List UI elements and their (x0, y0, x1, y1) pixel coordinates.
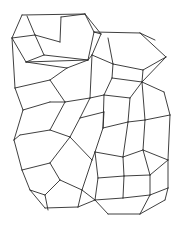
cage-edge (92, 55, 113, 64)
cage-edge (80, 98, 90, 118)
cage-edge (145, 115, 170, 120)
cage-edge (123, 157, 124, 176)
cage-edge (140, 33, 155, 40)
zeolite-cage-wireframe (0, 0, 181, 231)
cage-edge (15, 88, 23, 110)
cage-edge (168, 115, 170, 160)
cage-edge (164, 92, 170, 115)
cage-edge (27, 16, 35, 35)
cage-edge (123, 176, 124, 198)
cage-edge (12, 38, 26, 62)
cage-edge (26, 55, 44, 62)
cage-edge (104, 95, 130, 98)
cage-edge (50, 130, 70, 137)
cage-edge (50, 102, 65, 130)
cage-edge (94, 32, 140, 33)
cage-edge (22, 163, 50, 170)
cage-edge (123, 150, 143, 157)
cage-edge (90, 55, 92, 98)
cage-edge (112, 64, 113, 78)
cage-edge (15, 80, 50, 88)
cage-edge (165, 188, 168, 200)
cage-edge (78, 200, 95, 207)
cage-edge (95, 152, 98, 178)
cage-edge (95, 178, 98, 200)
cage-edge (143, 150, 168, 160)
cage-edge (14, 110, 23, 140)
cage-edge (35, 35, 44, 55)
cage-edge (67, 60, 88, 68)
cage-edge (50, 80, 65, 102)
cage-edge (95, 152, 123, 157)
cage-edge (50, 163, 60, 180)
cage-edge (150, 160, 168, 175)
cage-edge (128, 98, 130, 122)
cage-edge (150, 188, 168, 195)
cage-edge (65, 98, 90, 102)
cage-edge (140, 33, 166, 57)
cage-edge (98, 176, 124, 178)
cage-edges (12, 14, 170, 214)
cage-edge (90, 95, 104, 98)
cage-edge (104, 78, 112, 95)
cage-edge (80, 112, 104, 118)
cage-edge (35, 35, 60, 42)
cage-edge (108, 38, 113, 64)
cage-edge (14, 140, 22, 170)
cage-edge (128, 120, 145, 122)
cage-edge (130, 82, 142, 98)
cage-edge (60, 17, 61, 42)
cage-edge (123, 195, 150, 198)
cage-edge (60, 180, 82, 190)
cage-edge (142, 70, 143, 82)
cage-edge (123, 122, 128, 157)
cage-edge (143, 57, 166, 70)
cage-edge (12, 15, 22, 38)
cage-edge (70, 137, 92, 160)
cage-edge (22, 170, 30, 190)
cage-edge (26, 62, 67, 68)
cage-edge (95, 198, 123, 200)
cage-edge (142, 57, 166, 82)
cage-edge (95, 200, 108, 214)
cage-edge (70, 118, 80, 137)
cage-edge (26, 60, 88, 62)
cage-edge (20, 130, 50, 135)
cage-edge (50, 68, 67, 80)
cage-edge (23, 102, 50, 110)
cage-edge (124, 175, 150, 176)
cage-edge (82, 160, 92, 190)
cage-edge (78, 190, 82, 207)
cage-edge (12, 38, 15, 88)
cage-edge (143, 120, 145, 150)
cage-edge (95, 128, 103, 152)
cage-edge (103, 122, 128, 128)
cage-edge (92, 152, 95, 160)
cage-edge (112, 78, 142, 82)
cage-edge (142, 82, 164, 92)
cage-edge (45, 207, 78, 208)
cage-edge (113, 64, 143, 70)
cage-edge (50, 137, 70, 163)
cage-edge (12, 35, 35, 38)
cage-edge (82, 190, 95, 200)
cage-edge (45, 180, 60, 195)
cage-edge (142, 82, 145, 120)
framework-diagram (0, 0, 181, 231)
cage-edge (143, 150, 150, 175)
cage-edge (44, 55, 88, 60)
